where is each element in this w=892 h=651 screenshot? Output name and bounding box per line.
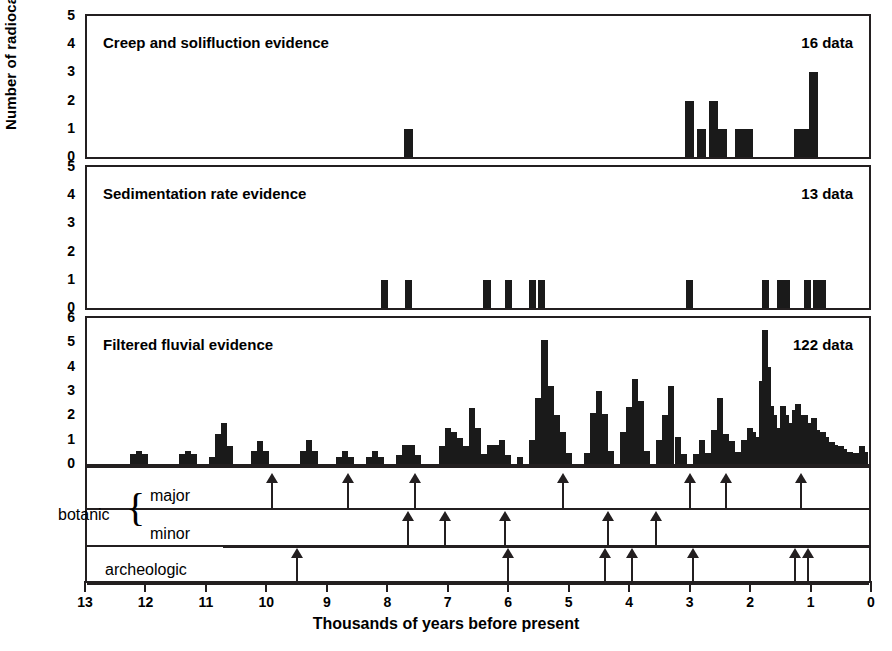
panel-creep-and-solifluction-ytick-label-1: 1 [51,120,75,136]
histogram-bar [718,129,727,157]
x-axis-line [85,581,871,583]
histogram-bar [794,129,809,157]
histogram-bar [809,72,818,157]
x-axis-tick-label-6: 6 [493,594,523,610]
event-rows-box [85,466,871,583]
panel-creep-and-solifluction-ytick-label-3: 3 [51,63,75,79]
x-axis-tick-label-0: 0 [856,594,886,610]
x-axis-tick-label-1: 1 [796,594,826,610]
event-arrow-botanic-major [689,482,691,508]
panel-sedimentation-rate-ytick-label-5: 5 [51,158,75,174]
event-arrow-archeologic [631,557,633,583]
botanic-group-label: botanic [58,506,110,524]
panel-sedimentation-rate-ytick-label-1: 1 [51,271,75,287]
x-axis-tick-2 [749,581,751,592]
x-axis-tick-label-12: 12 [130,594,160,610]
panel-filtered-fluvial-ytick-label-6: 6 [51,309,75,325]
histogram-bar [191,454,197,464]
panel-creep-and-solifluction-count-label: 16 data [761,34,853,51]
x-axis-tick-label-5: 5 [554,594,584,610]
histogram-bar [681,454,687,464]
event-arrow-archeologic [507,557,509,583]
x-axis-tick-5 [568,581,570,592]
histogram-bar [415,455,421,464]
x-axis-tick-12 [144,581,146,592]
x-axis-tick-11 [205,581,207,592]
panel-filtered-fluvial-ytick-label-4: 4 [51,358,75,374]
histogram-bar [529,280,536,308]
event-arrow-botanic-major [725,482,727,508]
histogram-bar [378,457,384,464]
histogram-bar [142,454,148,464]
x-axis-tick-0 [870,581,872,592]
histogram-bar [404,129,413,157]
event-row-label-botanic-minor: minor [150,525,190,543]
x-axis-tick-3 [689,581,691,592]
event-arrow-botanic-minor [607,520,609,546]
panel-filtered-fluvial-ytick-label-3: 3 [51,382,75,398]
x-axis-tick-6 [507,581,509,592]
x-axis-tick-label-13: 13 [70,594,100,610]
panel-sedimentation-rate-ytick-label-3: 3 [51,214,75,230]
panel-sedimentation-rate-ytick-label-2: 2 [51,243,75,259]
histogram-bar [685,101,694,157]
histogram-bar [312,451,318,464]
panel-creep-and-solifluction-ytick-label-2: 2 [51,92,75,108]
event-arrow-archeologic [794,557,796,583]
x-axis-tick-label-7: 7 [433,594,463,610]
event-row-separator [87,508,869,510]
histogram-bar [227,446,233,464]
histogram-bar [483,280,490,308]
y-axis-title: Number of radiocarbon dates [2,0,19,130]
x-axis-tick-13 [84,581,86,592]
panel-filtered-fluvial-ytick-label-1: 1 [51,431,75,447]
histogram-bar [686,280,693,308]
x-axis-tick-label-9: 9 [312,594,342,610]
x-axis-tick-8 [386,581,388,592]
x-axis-tick-4 [628,581,630,592]
panel-sedimentation-rate-count-label: 13 data [761,185,853,202]
x-axis-tick-label-11: 11 [191,594,221,610]
histogram-bar [505,280,512,308]
histogram-bar [813,280,826,308]
event-row-label-botanic-major: major [150,487,190,505]
botanic-brace: { [126,488,145,528]
x-axis-tick-7 [447,581,449,592]
event-arrow-archeologic [604,557,606,583]
event-arrow-botanic-minor [444,520,446,546]
histogram-bar [538,280,545,308]
x-axis-title: Thousands of years before present [0,615,892,633]
x-axis-tick-label-2: 2 [735,594,765,610]
event-arrow-botanic-major [800,482,802,508]
event-arrow-botanic-major [414,482,416,508]
event-row-label-archeologic: archeologic [105,561,187,579]
event-arrow-botanic-major [347,482,349,508]
x-axis-tick-10 [265,581,267,592]
event-arrow-archeologic [807,557,809,583]
histogram-bar [517,457,523,464]
panel-filtered-fluvial-title: Filtered fluvial evidence [103,336,273,353]
histogram-bar [405,280,412,308]
panel-filtered-fluvial-ytick-label-5: 5 [51,333,75,349]
x-axis-tick-9 [326,581,328,592]
panel-creep-and-solifluction-ytick-label-4: 4 [51,35,75,51]
panel-sedimentation-rate-title: Sedimentation rate evidence [103,185,306,202]
histogram-bar [735,129,753,157]
histogram-bar [762,280,769,308]
panel-creep-and-solifluction-title: Creep and solifluction evidence [103,34,329,51]
event-arrow-botanic-minor [655,520,657,546]
histogram-bar [697,129,706,157]
histogram-bar [381,280,388,308]
histogram-bar [505,455,511,464]
histogram-bar [348,457,354,464]
event-row-separator [87,545,869,547]
event-arrow-botanic-minor [504,520,506,546]
histogram-bar [804,280,811,308]
panel-filtered-fluvial-ytick-label-0: 0 [51,455,75,471]
event-arrow-archeologic [296,557,298,583]
event-arrow-archeologic [692,557,694,583]
histogram-bar [608,451,614,464]
panel-filtered-fluvial-count-label: 122 data [761,336,853,353]
panel-sedimentation-rate-ytick-label-4: 4 [51,186,75,202]
x-axis-tick-label-3: 3 [675,594,705,610]
